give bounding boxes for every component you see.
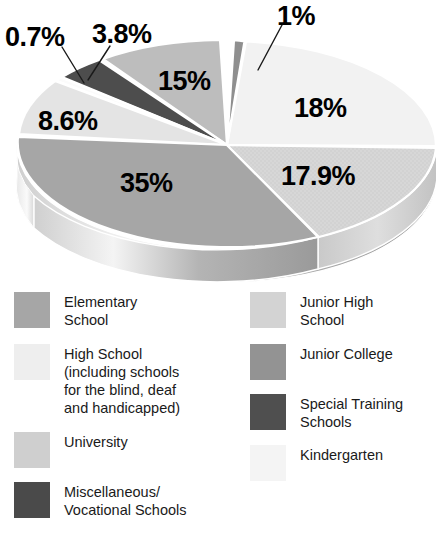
legend-label-junior-high-school: Junior High School: [300, 292, 373, 330]
legend-item-kindergarten[interactable]: Kindergarten: [250, 445, 436, 481]
legend-swatch-university: [14, 432, 50, 468]
legend-swatch-high-school: [14, 344, 50, 380]
pie-chart-graphic: 0.7% 3.8% 1% 15% 18% 8.6% 17.9% 35%: [0, 0, 436, 288]
pct-label-kindergarten: 18%: [294, 95, 347, 122]
legend-swatch-special-training-schools: [250, 394, 286, 430]
legend-swatch-miscellaneous-vocational-schools: [14, 482, 50, 518]
legend-item-special-training-schools[interactable]: Special Training Schools: [250, 394, 436, 432]
legend-label-university: University: [64, 432, 128, 451]
pct-label-high-school: 8.6%: [38, 108, 98, 135]
legend-label-elementary-school: Elementary School: [64, 292, 137, 330]
legend-column-left: Elementary School High School (including…: [14, 292, 224, 533]
legend-label-miscellaneous-vocational-schools: Miscellaneous/ Vocational Schools: [64, 482, 187, 520]
legend-swatch-junior-college: [250, 344, 286, 380]
legend-label-special-training-schools: Special Training Schools: [300, 394, 403, 432]
pct-label-special-training: 0.7%: [5, 24, 65, 51]
legend-swatch-kindergarten: [250, 445, 286, 481]
legend-item-junior-college[interactable]: Junior College: [250, 344, 436, 380]
legend-item-high-school[interactable]: High School (including schools for the b…: [14, 344, 224, 418]
legend-item-junior-high-school[interactable]: Junior High School: [250, 292, 436, 330]
pct-label-university: 15%: [158, 68, 211, 95]
legend-swatch-elementary-school: [14, 292, 50, 328]
pie-chart-figure: 0.7% 3.8% 1% 15% 18% 8.6% 17.9% 35% Elem…: [0, 0, 436, 544]
legend-item-miscellaneous-vocational-schools[interactable]: Miscellaneous/ Vocational Schools: [14, 482, 224, 520]
legend-swatch-junior-high-school: [250, 292, 286, 328]
legend-item-elementary-school[interactable]: Elementary School: [14, 292, 224, 330]
legend-label-high-school: High School (including schools for the b…: [64, 344, 180, 418]
chart-legend: Elementary School High School (including…: [0, 292, 436, 544]
pct-label-miscellaneous: 3.8%: [92, 21, 152, 48]
pct-label-junior-high-school: 17.9%: [281, 163, 355, 190]
pie-slices: [18, 40, 436, 247]
legend-item-university[interactable]: University: [14, 432, 224, 468]
legend-label-junior-college: Junior College: [300, 344, 393, 363]
pct-label-elementary-school: 35%: [120, 170, 173, 197]
pie-svg: [0, 0, 436, 288]
legend-column-right: Junior High School Junior College Specia…: [250, 292, 436, 495]
pct-label-junior-college: 1%: [277, 3, 315, 30]
legend-label-kindergarten: Kindergarten: [300, 445, 383, 464]
